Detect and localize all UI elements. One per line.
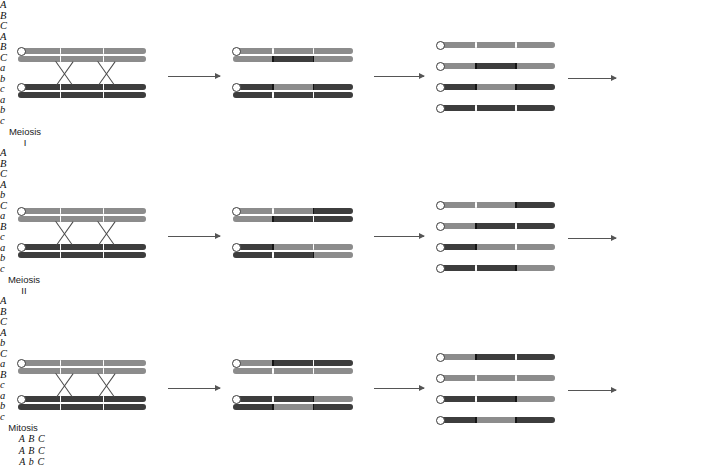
prophase-allele-label: C xyxy=(0,21,711,32)
meiosis2-chromatid xyxy=(437,354,555,360)
chromatid-segment xyxy=(18,92,60,98)
chromatid-segment xyxy=(104,244,146,250)
chromatid-segment xyxy=(517,105,555,111)
chromatid-segment xyxy=(314,216,353,222)
meiosis2-allele-label: A xyxy=(0,296,711,307)
chromatid-segment xyxy=(18,252,60,258)
meiosis-ii-arrow xyxy=(374,76,424,77)
chromatid-segment xyxy=(274,368,313,374)
meiosis1-chromatid xyxy=(233,252,353,258)
centromere xyxy=(17,47,26,56)
chromatid-segment xyxy=(18,216,60,222)
meiosis1-chromatid xyxy=(233,48,353,54)
chromatid-segment xyxy=(18,368,60,374)
chromatid-segment xyxy=(314,360,353,366)
meiosis1-chromatid xyxy=(233,404,353,410)
chromatid-segment xyxy=(477,42,515,48)
centromere xyxy=(17,83,26,92)
centromere xyxy=(436,201,445,210)
prophase-allele-label: A xyxy=(0,32,711,43)
chromatid-segment xyxy=(517,202,555,208)
meiosis2-chromatid xyxy=(437,244,555,250)
centromere xyxy=(17,395,26,404)
chromatid-segment xyxy=(517,63,555,69)
chromatid-segment xyxy=(104,216,146,222)
meiosis1-chromatid xyxy=(233,368,353,374)
meiosis1-chromatid xyxy=(233,92,353,98)
chromatid-segment xyxy=(517,396,555,402)
chromatid-segment xyxy=(61,244,103,250)
chromatid-segment xyxy=(274,84,313,90)
chromatid-segment xyxy=(61,404,103,410)
centromere xyxy=(232,47,241,56)
chromatid-segment xyxy=(314,92,353,98)
chromatid-segment xyxy=(314,84,353,90)
centromere xyxy=(436,243,445,252)
mitosis-arrow xyxy=(568,78,616,79)
meiosis-i-arrow xyxy=(168,76,220,77)
chromatid-segment xyxy=(274,252,313,258)
chromatid-segment xyxy=(61,92,103,98)
chromatid-segment xyxy=(314,252,353,258)
chromatid-segment xyxy=(104,92,146,98)
centromere xyxy=(232,395,241,404)
chromatid-segment xyxy=(477,417,515,423)
meiosis1-chromatid xyxy=(233,56,353,62)
chromatid-segment xyxy=(314,48,353,54)
meiosis2-chromatid xyxy=(437,202,555,208)
chromatid-segment xyxy=(517,223,555,229)
figure-canvas: ABCABCabcabcMeiosisIABCAbCaBcabcMeiosisI… xyxy=(0,0,711,466)
meiosis2-chromatid xyxy=(437,265,555,271)
chromatid-segment xyxy=(61,208,103,214)
chromatid-segment xyxy=(477,396,515,402)
prophase-chromatid xyxy=(18,48,146,54)
prophase-chromatid xyxy=(18,368,146,374)
chromatid-segment xyxy=(477,354,515,360)
centromere xyxy=(436,83,445,92)
meiosis-ii-label: II xyxy=(0,285,48,296)
chromatid-segment xyxy=(104,360,146,366)
chromatid-segment xyxy=(104,252,146,258)
meiosis-i-label: I xyxy=(0,137,50,148)
meiosis1-allele-label: b xyxy=(0,190,711,201)
chromatid-segment xyxy=(517,417,555,423)
centromere xyxy=(436,104,445,113)
meiosis2-chromatid xyxy=(437,417,555,423)
meiosis1-chromatid xyxy=(233,396,353,402)
chromatid-segment xyxy=(274,404,313,410)
chromatid-segment xyxy=(314,244,353,250)
meiosis-ii-label: Meiosis xyxy=(0,274,48,285)
chromatid-segment xyxy=(274,92,313,98)
meiosis1-allele-label: A xyxy=(0,148,711,159)
meiosis2-chromatid xyxy=(437,84,555,90)
chromatid-segment xyxy=(104,84,146,90)
chromatid-segment xyxy=(233,216,272,222)
meiosis-i-arrow xyxy=(168,388,220,389)
centromere xyxy=(436,374,445,383)
meiosis2-allele-label: c xyxy=(0,412,711,423)
meiosis2-allele-label: C xyxy=(0,317,711,328)
meiosis1-chromatid xyxy=(233,216,353,222)
mitosis-label: Mitosis xyxy=(0,422,46,433)
chromatid-segment xyxy=(477,223,515,229)
meiosis1-allele-label: A xyxy=(0,180,711,191)
prophase-chromatid xyxy=(18,84,146,90)
chromatid-segment xyxy=(314,208,353,214)
meiosis1-chromatid xyxy=(233,84,353,90)
centromere xyxy=(436,41,445,50)
chromatid-segment xyxy=(104,56,146,62)
chromatid-segment xyxy=(61,252,103,258)
chromatid-segment xyxy=(274,360,313,366)
prophase-chromatid xyxy=(18,92,146,98)
meiosis2-chromatid xyxy=(437,63,555,69)
chromatid-segment xyxy=(314,368,353,374)
chromatid-segment xyxy=(274,244,313,250)
prophase-allele-label: B xyxy=(0,11,711,22)
meiosis-i-label: Meiosis xyxy=(0,126,50,137)
chromatid-segment xyxy=(517,84,555,90)
chromatid-segment xyxy=(274,56,313,62)
chromatid-segment xyxy=(477,265,515,271)
chromatid-segment xyxy=(274,48,313,54)
chromatid-segment xyxy=(517,42,555,48)
prophase-chromatid xyxy=(18,216,146,222)
